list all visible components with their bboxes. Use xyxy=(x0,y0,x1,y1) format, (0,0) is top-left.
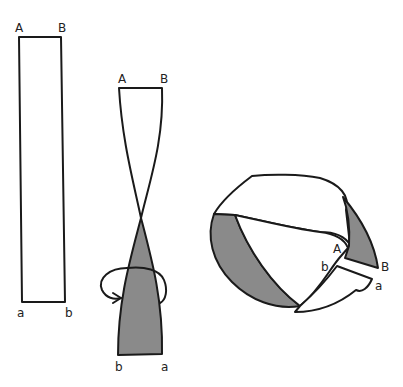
label-B: B xyxy=(58,21,66,35)
label-A: A xyxy=(15,21,24,35)
twisted-strip: A B b a xyxy=(101,72,168,374)
label-b: b xyxy=(321,260,329,274)
label-B: B xyxy=(381,260,389,274)
label-b: b xyxy=(115,360,123,374)
label-A: A xyxy=(333,242,342,256)
mobius-loop: A B b a xyxy=(211,175,390,312)
right-band-shaded xyxy=(343,197,378,268)
lower-face-shaded xyxy=(118,218,162,355)
label-a: a xyxy=(161,360,168,374)
label-b: b xyxy=(65,306,73,320)
label-a: a xyxy=(17,306,24,320)
mobius-diagram: A B a b A B b a A B b a xyxy=(0,0,403,387)
label-B: B xyxy=(160,72,168,86)
label-A: A xyxy=(118,72,127,86)
strip-rectangle xyxy=(19,37,65,302)
upper-face xyxy=(119,88,162,218)
label-a: a xyxy=(375,279,382,293)
flat-strip: A B a b xyxy=(15,21,73,320)
